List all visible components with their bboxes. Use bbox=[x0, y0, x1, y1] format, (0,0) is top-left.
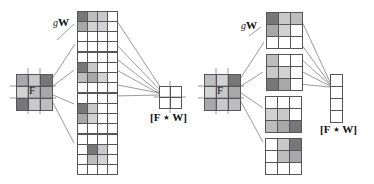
kernel-cell bbox=[266, 151, 277, 162]
kernel-cell bbox=[291, 13, 302, 24]
kernel-cell bbox=[290, 121, 301, 132]
right-kernel-3 bbox=[265, 96, 302, 133]
right-panel: gW F bbox=[187, 0, 374, 184]
kernel-cell bbox=[291, 37, 302, 48]
output-cell bbox=[331, 111, 342, 122]
kernel-cell bbox=[290, 163, 301, 174]
kernel-cell bbox=[266, 97, 277, 108]
right-kernel-2 bbox=[266, 54, 303, 91]
right-output-grid bbox=[330, 74, 343, 123]
kernel-cell bbox=[279, 55, 290, 66]
kernel-cell bbox=[291, 67, 302, 78]
kernel-cell bbox=[279, 37, 290, 48]
kernel-cell bbox=[291, 55, 302, 66]
right-kernel-1 bbox=[266, 12, 303, 49]
kernel-cell bbox=[290, 97, 301, 108]
kernel-cell bbox=[291, 25, 302, 36]
kernel-cell bbox=[278, 97, 289, 108]
right-kernel-4 bbox=[265, 138, 302, 175]
kernel-cell bbox=[278, 109, 289, 120]
kernel-cell bbox=[266, 163, 277, 174]
kernel-cell bbox=[267, 67, 278, 78]
kernel-cell bbox=[266, 109, 277, 120]
kernel-cell bbox=[267, 55, 278, 66]
kernel-cell bbox=[278, 121, 289, 132]
kernel-cell bbox=[267, 25, 278, 36]
output-cell bbox=[331, 87, 342, 98]
kernel-cell bbox=[267, 79, 278, 90]
kernel-cell bbox=[266, 121, 277, 132]
kernel-cell bbox=[267, 37, 278, 48]
kernel-cell bbox=[279, 67, 290, 78]
kernel-cell bbox=[290, 151, 301, 162]
right-output-label: [F ⋆ W] bbox=[320, 124, 357, 135]
kernel-cell bbox=[278, 163, 289, 174]
output-cell bbox=[331, 99, 342, 110]
kernel-cell bbox=[291, 79, 302, 90]
kernel-cell bbox=[278, 139, 289, 150]
kernel-cell bbox=[267, 13, 278, 24]
figure-canvas: gW F bbox=[0, 0, 374, 184]
left-panel: gW F bbox=[0, 0, 187, 184]
output-cell bbox=[331, 75, 342, 86]
kernel-cell bbox=[279, 25, 290, 36]
kernel-cell bbox=[278, 151, 289, 162]
left-output-label: [F ⋆ W] bbox=[150, 112, 187, 123]
kernel-cell bbox=[279, 13, 290, 24]
kernel-cell bbox=[290, 109, 301, 120]
kernel-cell bbox=[266, 139, 277, 150]
left-output-grid-ticks bbox=[0, 0, 187, 184]
kernel-cell bbox=[290, 139, 301, 150]
kernel-cell bbox=[279, 79, 290, 90]
right-input-label: F bbox=[217, 85, 223, 96]
